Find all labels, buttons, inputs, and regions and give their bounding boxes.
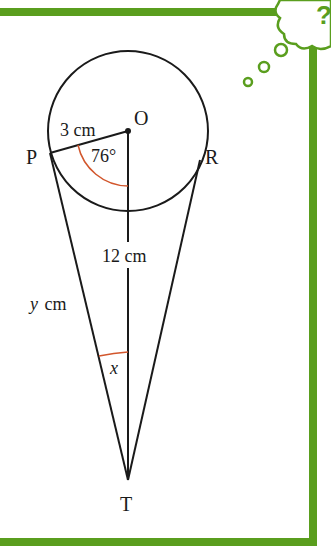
bubble-circle-medium	[259, 62, 269, 72]
question-mark-icon: ?	[316, 0, 331, 30]
label-R: R	[205, 146, 219, 168]
frame-bottom-bar	[0, 538, 317, 546]
tangent-RT	[128, 160, 200, 480]
geometry-figure: ? O P R T 3 cm 76° 12 cm y cm x	[0, 0, 331, 546]
tangent-PT	[50, 153, 128, 480]
bubble-circle-large	[275, 44, 287, 56]
diagram-canvas: ? O P R T 3 cm 76° 12 cm y cm x	[0, 0, 331, 546]
label-OT-length: 12 cm	[102, 246, 147, 266]
angle-arc-PTO	[99, 352, 128, 356]
bubble-circle-small	[244, 78, 252, 86]
label-radius: 3 cm	[60, 120, 96, 140]
label-P: P	[26, 146, 37, 168]
label-PT-length: y cm	[28, 294, 67, 314]
label-O: O	[134, 107, 148, 129]
page-frame	[0, 8, 317, 546]
center-point-O	[125, 128, 131, 134]
label-T: T	[120, 493, 132, 515]
frame-right-bar	[309, 44, 317, 546]
label-angle-76: 76°	[91, 146, 116, 166]
label-PT-unit: cm	[45, 294, 67, 314]
frame-top-bar	[0, 8, 278, 16]
label-PT-variable: y	[28, 294, 38, 314]
label-angle-x: x	[109, 358, 118, 378]
